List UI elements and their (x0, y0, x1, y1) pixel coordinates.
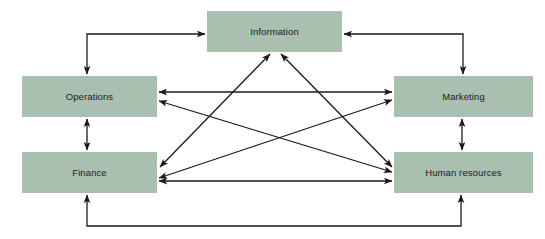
connector-finance-information (160, 54, 270, 167)
node-operations[interactable]: Operations (22, 76, 157, 117)
node-human-resources[interactable]: Human resources (394, 152, 533, 193)
node-operations-label: Operations (66, 92, 113, 102)
node-finance-label: Finance (72, 168, 107, 178)
node-marketing-label: Marketing (442, 92, 485, 102)
connector-human-resources-information (281, 54, 392, 167)
connector-finance-human-resources-bottom (87, 195, 461, 226)
node-information[interactable]: Information (207, 11, 342, 52)
diagram-canvas: Information Operations Marketing Finance… (0, 0, 545, 239)
node-finance[interactable]: Finance (22, 152, 157, 193)
node-marketing[interactable]: Marketing (394, 76, 533, 117)
connector-marketing-information (344, 34, 463, 74)
connector-operations-information (87, 34, 205, 74)
node-human-resources-label: Human resources (425, 168, 501, 178)
node-information-label: Information (250, 27, 299, 37)
